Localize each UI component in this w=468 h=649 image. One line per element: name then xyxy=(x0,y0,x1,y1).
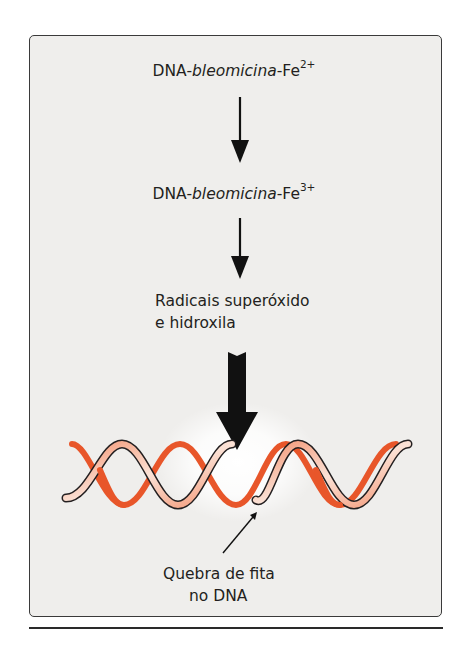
diagram-graphics xyxy=(0,0,468,649)
arrow-down-icon xyxy=(231,97,249,163)
arrow-down-icon xyxy=(231,218,249,279)
bottom-rule xyxy=(29,627,443,629)
